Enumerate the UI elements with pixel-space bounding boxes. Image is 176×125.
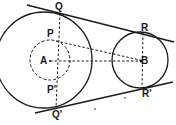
two-circles-tangent-figure — [0, 0, 176, 125]
label-p: P — [47, 29, 54, 39]
point-a — [49, 60, 51, 62]
label-b: B — [141, 56, 148, 66]
diagram-canvas: Q Q' R R' P P' A B — [0, 0, 176, 125]
label-r-prime: R' — [142, 89, 152, 99]
label-q: Q — [55, 2, 63, 12]
label-r: R — [141, 23, 148, 33]
label-q-prime: Q' — [52, 110, 62, 120]
stray-dot — [124, 97, 126, 99]
stray-dot — [94, 108, 96, 110]
segment-p-b — [56, 41, 140, 60]
label-a: A — [40, 56, 47, 66]
label-p-prime: P' — [47, 85, 56, 95]
segment-p-prime-b — [55, 61, 140, 80]
